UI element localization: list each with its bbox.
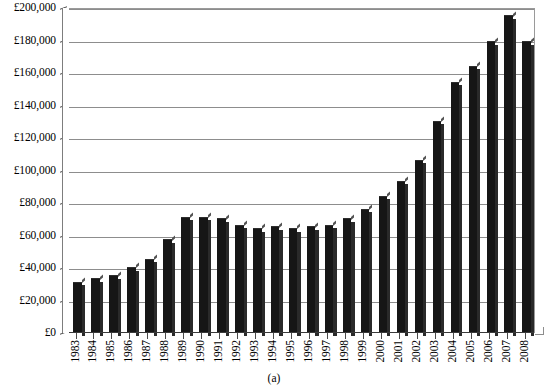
axis-corner <box>535 327 544 335</box>
x-tick-label: 1989 <box>177 340 189 363</box>
bar-column <box>270 9 288 333</box>
x-tick-label: 2000 <box>375 340 387 363</box>
x-tick-mark <box>309 333 310 339</box>
x-tick-label: 2004 <box>447 340 459 363</box>
bar <box>127 267 136 333</box>
bar <box>343 218 352 333</box>
bar <box>217 218 226 333</box>
bar-column <box>126 9 144 333</box>
x-tick-label: 1988 <box>159 340 171 363</box>
x-tick-label: 1999 <box>357 340 369 363</box>
y-tick-label: £200,000 <box>14 2 56 14</box>
bar-column <box>234 9 252 333</box>
x-tick-mark <box>525 333 526 339</box>
bar <box>181 217 190 333</box>
x-tick-label: 1991 <box>213 340 225 363</box>
bar-column <box>180 9 198 333</box>
bar-column <box>432 9 450 333</box>
bar-column <box>360 9 378 333</box>
x-tick-mark <box>93 333 94 339</box>
x-tick-label: 1983 <box>70 340 82 363</box>
x-tick-label: 1987 <box>141 340 153 363</box>
bar <box>109 275 118 333</box>
bar <box>504 15 513 333</box>
y-axis-labels: £200,000£180,000£160,000£140,000£120,000… <box>0 0 62 340</box>
x-tick-mark <box>165 333 166 339</box>
x-tick-mark <box>507 333 508 339</box>
x-tick-mark <box>489 333 490 339</box>
x-tick-label: 1993 <box>249 340 261 363</box>
x-tick-mark <box>237 333 238 339</box>
x-tick-mark <box>201 333 202 339</box>
x-tick-mark <box>345 333 346 339</box>
x-tick-mark <box>381 333 382 339</box>
bar-column <box>162 9 180 333</box>
x-tick-label: 1992 <box>231 340 243 363</box>
y-tick-label: £100,000 <box>14 165 56 177</box>
x-tick-mark <box>399 333 400 339</box>
y-tick-label: £60,000 <box>19 230 56 242</box>
y-tick-label: £20,000 <box>19 295 56 307</box>
x-tick-label: 1985 <box>105 340 117 363</box>
x-tick-mark <box>291 333 292 339</box>
x-tick-label: 2005 <box>465 340 477 363</box>
x-tick-mark <box>273 333 274 339</box>
x-tick-label: 2007 <box>501 340 513 363</box>
x-tick-mark <box>129 333 130 339</box>
x-tick-label: 2001 <box>393 340 405 363</box>
x-tick-mark <box>471 333 472 339</box>
y-tick-label: £80,000 <box>19 197 56 209</box>
bar <box>73 282 82 333</box>
x-tick-label: 2008 <box>519 340 531 363</box>
bar <box>289 228 298 333</box>
plot-area <box>68 8 535 333</box>
x-tick-label: 1990 <box>195 340 207 363</box>
bar <box>469 66 478 334</box>
y-tick-label: £120,000 <box>14 132 56 144</box>
bar-column <box>72 9 90 333</box>
x-tick-mark <box>111 333 112 339</box>
bar <box>451 82 460 333</box>
x-tick-label: 1995 <box>285 340 297 363</box>
bar-column <box>144 9 162 333</box>
bar <box>397 181 406 333</box>
bar-column <box>216 9 234 333</box>
x-tick-mark <box>76 333 77 339</box>
x-tick-mark <box>453 333 454 339</box>
bar <box>379 196 388 334</box>
y-tick-label: £0 <box>45 327 56 339</box>
bar-column <box>306 9 324 333</box>
bar-column <box>342 9 360 333</box>
x-tick-mark <box>417 333 418 339</box>
x-tick-label: 1998 <box>339 340 351 363</box>
figure-caption: (a) <box>0 372 548 384</box>
x-tick-mark <box>363 333 364 339</box>
bar-chart: £200,000£180,000£160,000£140,000£120,000… <box>0 0 548 388</box>
bar <box>361 209 370 334</box>
bar-column <box>521 9 539 333</box>
bar <box>487 41 496 333</box>
bar-column <box>450 9 468 333</box>
x-tick-mark <box>255 333 256 339</box>
y-tick-label: £140,000 <box>14 100 56 112</box>
bar-column <box>503 9 521 333</box>
y-tick-label: £160,000 <box>14 67 56 79</box>
axis-wall <box>62 8 69 333</box>
bar <box>163 239 172 333</box>
bar <box>199 217 208 333</box>
x-tick-label: 2006 <box>483 340 495 363</box>
bar-column <box>252 9 270 333</box>
bar <box>433 121 442 333</box>
bar-column <box>396 9 414 333</box>
bar-column <box>108 9 126 333</box>
x-tick-label: 2003 <box>429 340 441 363</box>
x-tick-mark <box>327 333 328 339</box>
bar-column <box>486 9 504 333</box>
bar <box>522 41 531 333</box>
bar <box>91 278 100 333</box>
y-tick-label: £40,000 <box>19 262 56 274</box>
x-tick-label: 1994 <box>267 340 279 363</box>
bar-column <box>90 9 108 333</box>
bar <box>307 226 316 333</box>
bar <box>235 225 244 333</box>
